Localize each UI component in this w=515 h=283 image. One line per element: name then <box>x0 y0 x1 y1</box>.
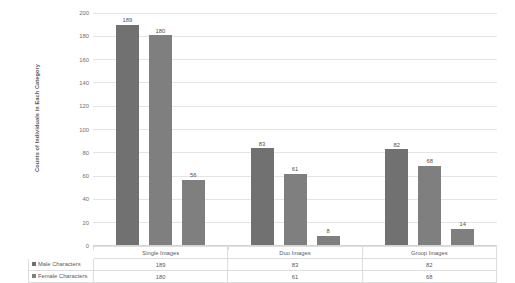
bar-value-label: 82 <box>393 142 399 148</box>
bar: 56 <box>182 180 205 245</box>
y-axis-tick-label: 200 <box>59 10 89 16</box>
table-row: Female Characters1806168 <box>29 271 497 283</box>
plot-area: 0204060801001201401601802001891805683618… <box>93 13 497 246</box>
bar-value-label: 8 <box>326 228 329 234</box>
bar-value-label: 83 <box>259 141 265 147</box>
table-cell-value: 180 <box>94 271 228 283</box>
bar-value-label: 180 <box>155 28 165 34</box>
bar: 180 <box>149 35 172 245</box>
table-cell-value: 83 <box>228 259 362 271</box>
table-column-header: Duo Images <box>228 247 362 259</box>
table-column-header: Group Images <box>362 247 496 259</box>
bar: 189 <box>116 25 139 245</box>
bar: 8 <box>317 236 340 245</box>
legend-label: Male Characters <box>38 262 81 268</box>
bar: 61 <box>284 174 307 245</box>
y-axis-tick-label: 40 <box>59 196 89 202</box>
y-axis-tick-label: 20 <box>59 220 89 226</box>
y-axis-tick-label: 80 <box>59 150 89 156</box>
bar: 14 <box>451 229 474 245</box>
bar-value-label: 56 <box>190 172 196 178</box>
table-cell-value: 61 <box>228 271 362 283</box>
y-axis-tick-label: 180 <box>59 33 89 39</box>
table-corner-cell <box>29 247 94 259</box>
bar-value-label: 14 <box>459 221 465 227</box>
grid-line <box>93 13 497 14</box>
table-header-row: Single ImagesDuo ImagesGroup Images <box>29 247 497 259</box>
data-table: Single ImagesDuo ImagesGroup ImagesMale … <box>28 246 497 283</box>
y-axis-tick-label: 160 <box>59 57 89 63</box>
bar: 82 <box>385 149 408 245</box>
table-cell-value: 82 <box>362 259 496 271</box>
table-cell-value: 189 <box>94 259 228 271</box>
legend-swatch-icon <box>32 274 36 278</box>
y-axis-tick-label: 120 <box>59 103 89 109</box>
bar: 68 <box>418 166 441 245</box>
y-axis-tick-label: 140 <box>59 80 89 86</box>
legend-label: Female Characters <box>38 274 87 280</box>
table-cell-value: 68 <box>362 271 496 283</box>
legend-swatch-icon <box>32 262 36 266</box>
y-axis-tick-label: 100 <box>59 127 89 133</box>
bar-value-label: 61 <box>292 166 298 172</box>
table-row: Male Characters1898382 <box>29 259 497 271</box>
bar-value-label: 189 <box>122 17 132 23</box>
y-axis-title: Counts of Individuals in Each Category <box>34 28 40 208</box>
bar: 83 <box>251 148 274 245</box>
bar-value-label: 68 <box>426 158 432 164</box>
legend-entry[interactable]: Female Characters <box>29 271 94 283</box>
y-axis-tick-label: 60 <box>59 173 89 179</box>
legend-entry[interactable]: Male Characters <box>29 259 94 271</box>
table-column-header: Single Images <box>94 247 228 259</box>
